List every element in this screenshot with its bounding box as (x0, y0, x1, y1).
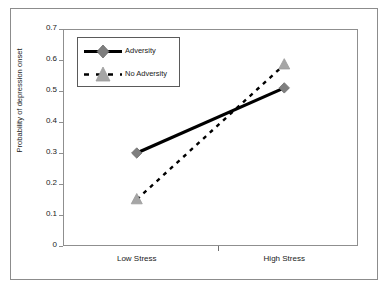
legend-swatch-solid-diamond-icon (83, 39, 123, 64)
y-tick-label: 0.1 (33, 210, 57, 218)
legend-label-no-adversity: No Adversity (125, 69, 167, 78)
x-axis-mid-tick (218, 246, 219, 251)
y-axis-title: Probability of depression onset (15, 0, 24, 206)
x-tick-label: Low Stress (117, 254, 157, 263)
legend[interactable]: Adversity No Adversity (77, 37, 180, 87)
y-tick-label: 0.7 (33, 24, 57, 32)
chart-root: Probability of depression onset 00.10.20… (0, 0, 390, 290)
x-tick-label: High Stress (264, 254, 305, 263)
legend-label-adversity: Adversity (125, 46, 156, 55)
y-tick-label: 0.6 (33, 55, 57, 63)
legend-swatch-dashed-triangle-icon (83, 62, 123, 87)
y-tick-label: 0.2 (33, 179, 57, 187)
y-tick-label: 0.4 (33, 117, 57, 125)
y-tick-label: 0.3 (33, 148, 57, 156)
legend-item-no-adversity[interactable]: No Adversity (78, 62, 179, 87)
legend-item-adversity[interactable]: Adversity (78, 39, 179, 64)
y-tick-mark (59, 246, 63, 247)
y-tick-label: 0 (33, 241, 57, 249)
y-tick-label: 0.5 (33, 86, 57, 94)
